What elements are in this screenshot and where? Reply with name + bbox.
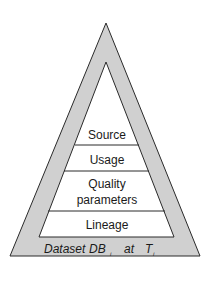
svg-text:DB: DB bbox=[89, 242, 106, 256]
layer-lineage-label: Lineage bbox=[86, 218, 129, 232]
metadata-pyramid-diagram: Source Usage Quality parameters Lineage … bbox=[0, 0, 212, 283]
layer-source-label: Source bbox=[88, 128, 126, 142]
layer-usage-label: Usage bbox=[90, 153, 125, 167]
layer-quality-label-1: Quality bbox=[88, 177, 125, 191]
layer-quality-label-2: parameters bbox=[77, 193, 138, 207]
svg-text:at: at bbox=[124, 242, 135, 256]
svg-text:Dataset: Dataset bbox=[44, 242, 86, 256]
